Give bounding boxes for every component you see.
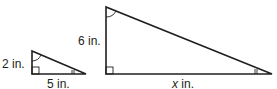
large-right-angle-mark — [106, 67, 113, 74]
small-height-label: 2 in. — [2, 57, 25, 71]
large-top-angle-arc — [106, 11, 116, 17]
small-triangle-outline — [32, 51, 86, 74]
small-base-label: 5 in. — [47, 77, 70, 89]
large-base-label: x in. — [171, 77, 194, 89]
small-top-angle-arc — [32, 55, 41, 61]
base-unit: in. — [178, 77, 194, 89]
large-triangle: 6 in. x in. — [78, 7, 272, 89]
small-triangle: 2 in. 5 in. — [2, 51, 86, 89]
large-height-label: 6 in. — [78, 34, 101, 48]
large-triangle-outline — [106, 7, 272, 74]
small-right-angle-mark — [32, 67, 39, 74]
similar-triangles-diagram: 2 in. 5 in. 6 in. x in. — [0, 0, 277, 89]
